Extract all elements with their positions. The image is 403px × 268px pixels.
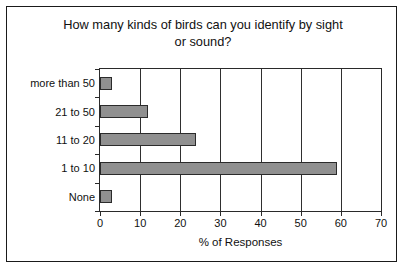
y-axis-label: more than 50	[7, 77, 95, 89]
y-axis-label: 1 to 10	[7, 162, 95, 174]
gridline	[261, 69, 262, 211]
y-axis-label: 11 to 20	[7, 134, 95, 146]
x-axis-tick-label: 20	[174, 217, 186, 230]
y-axis-label: None	[7, 191, 95, 203]
x-axis-title: % of Responses	[99, 236, 382, 248]
bar-row	[100, 126, 196, 154]
x-axis-tick-label: 0	[97, 217, 103, 230]
bar	[100, 133, 196, 146]
bar	[100, 105, 148, 118]
x-axis-tick	[220, 212, 221, 216]
bar	[100, 77, 112, 90]
x-axis-tick-label: 60	[335, 217, 347, 230]
x-axis-tick-label: 10	[134, 217, 146, 230]
bar	[100, 162, 337, 175]
x-axis-tick	[261, 212, 262, 216]
x-axis-tick	[301, 212, 302, 216]
x-axis-tick	[180, 212, 181, 216]
y-axis-tick	[95, 211, 99, 212]
x-axis-tick-label: 50	[295, 217, 307, 230]
bar-row	[100, 154, 337, 182]
y-axis-tick	[95, 183, 99, 184]
y-axis-tick	[95, 154, 99, 155]
y-axis-label: 21 to 50	[7, 106, 95, 118]
gridline	[301, 69, 302, 211]
chart-title: How many kinds of birds can you identify…	[27, 16, 379, 50]
x-axis-tick-label: 40	[254, 217, 266, 230]
x-axis-tick	[381, 212, 382, 216]
y-axis-tick	[95, 69, 99, 70]
x-axis-tick-label: 70	[375, 217, 387, 230]
y-axis-labels: more than 5021 to 5011 to 201 to 10None	[7, 68, 95, 212]
plot-area	[99, 68, 382, 212]
gridline	[220, 69, 221, 211]
x-axis-tick-labels: 010203040506070	[99, 217, 382, 231]
x-axis-tick	[100, 212, 101, 216]
x-axis-tick-label: 30	[214, 217, 226, 230]
bar-row	[100, 183, 112, 211]
x-axis-tick	[140, 212, 141, 216]
bar	[100, 190, 112, 203]
bar-row	[100, 69, 112, 97]
gridline	[341, 69, 342, 211]
y-axis-tick	[95, 97, 99, 98]
x-axis-tick	[341, 212, 342, 216]
bar-row	[100, 97, 148, 125]
chart-figure: How many kinds of birds can you identify…	[6, 6, 397, 262]
y-axis-tick	[95, 126, 99, 127]
